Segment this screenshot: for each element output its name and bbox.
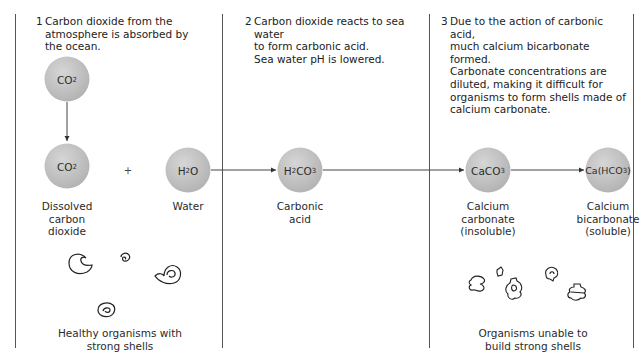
damaged-shell-icon xyxy=(568,284,586,300)
damaged-shell-icon xyxy=(546,267,558,281)
caption-unhealthy-organisms: Organisms unable to build strong shells xyxy=(478,327,587,352)
caption-healthy-organisms: Healthy organisms with strong shells xyxy=(58,327,182,352)
damaged-shells xyxy=(0,0,643,363)
damaged-shell-icon xyxy=(497,267,503,276)
damaged-shell-icon xyxy=(506,278,522,299)
damaged-shell-icon xyxy=(469,276,484,291)
